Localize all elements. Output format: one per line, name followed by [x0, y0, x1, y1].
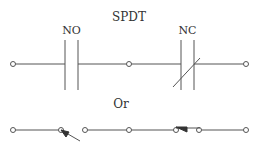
nc-contact-symbol [173, 40, 200, 90]
no-contact-symbol [65, 40, 78, 90]
no-switch-arm [61, 130, 80, 141]
nc-label: NC [178, 24, 196, 37]
terminal-left [11, 62, 16, 67]
terminal-nc-end [244, 128, 249, 133]
ladder-representation [11, 40, 249, 90]
no-label: NO [62, 24, 81, 37]
nc-slash [173, 58, 200, 87]
diagram-title: SPDT [112, 10, 146, 24]
terminal-no-right [83, 128, 88, 133]
terminal-common-bottom [127, 128, 132, 133]
terminal-common [127, 62, 132, 67]
terminal-right [244, 62, 249, 67]
schematic-representation [11, 127, 249, 141]
terminal-no-left [11, 128, 16, 133]
spdt-diagram: SPDT NO NC Or [0, 0, 257, 149]
or-separator: Or [113, 97, 129, 111]
